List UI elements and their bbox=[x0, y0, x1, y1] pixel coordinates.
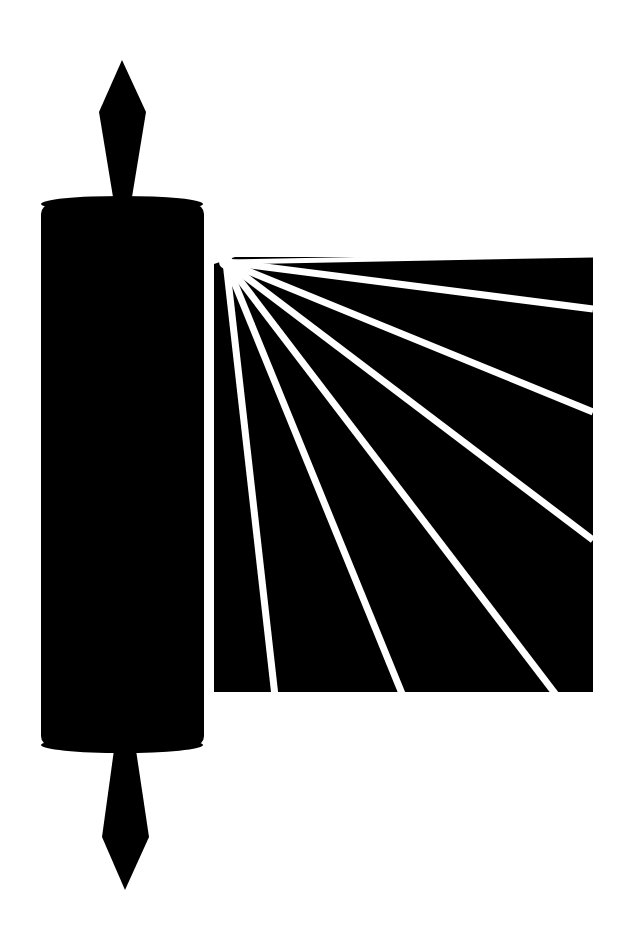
torah-scroll-graphic bbox=[0, 0, 630, 946]
bottom-finial-icon bbox=[102, 750, 149, 890]
parchment-with-rays bbox=[214, 255, 593, 696]
top-finial-icon bbox=[99, 60, 146, 197]
scroll-roller bbox=[41, 60, 204, 890]
roller-bottom-cap bbox=[41, 737, 203, 753]
roller-body bbox=[41, 204, 204, 746]
roller-top-cap bbox=[41, 196, 203, 212]
